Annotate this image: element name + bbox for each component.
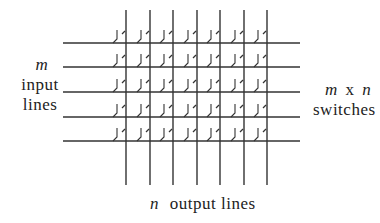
bottom-label-text: output lines — [170, 194, 256, 213]
switch-icon — [113, 104, 117, 117]
switch-contact-icon — [216, 105, 219, 108]
switch-icon — [207, 79, 211, 92]
switch-icon — [160, 54, 164, 67]
switch-icon — [160, 79, 164, 92]
switch-contact-icon — [216, 55, 219, 58]
switch-contact-icon — [122, 129, 125, 132]
switch-icon — [254, 79, 258, 92]
switch-icon — [137, 54, 141, 67]
switch-icon — [254, 54, 258, 67]
right-label-line2: switches — [313, 100, 376, 120]
right-label-var-m: m — [325, 80, 338, 99]
switch-contact-icon — [263, 55, 266, 58]
switch-icon — [231, 128, 235, 141]
switch-contact-icon — [263, 80, 266, 83]
switch-contact-icon — [169, 129, 172, 132]
switch-icon — [113, 79, 117, 92]
switch-contact-icon — [216, 31, 219, 34]
switch-contact-icon — [240, 31, 243, 34]
switch-icon — [254, 104, 258, 117]
switch-icon — [231, 30, 235, 43]
left-label-line1: input — [18, 75, 62, 95]
right-label: m x n switches — [313, 80, 376, 120]
switch-icon — [137, 104, 141, 117]
switch-icon — [113, 128, 117, 141]
switch-icon — [113, 30, 117, 43]
switch-contact-icon — [263, 105, 266, 108]
switch-contact-icon — [122, 80, 125, 83]
switch-contact-icon — [240, 105, 243, 108]
switch-contact-icon — [240, 80, 243, 83]
switch-contact-icon — [193, 105, 196, 108]
right-label-times: x — [346, 80, 355, 99]
switch-contact-icon — [263, 31, 266, 34]
bottom-label-var: n — [150, 194, 159, 213]
switch-contact-icon — [146, 31, 149, 34]
switch-contact-icon — [169, 31, 172, 34]
left-label-line2: lines — [18, 95, 62, 115]
switch-icon — [160, 128, 164, 141]
switch-icon — [207, 54, 211, 67]
switch-contact-icon — [193, 31, 196, 34]
right-label-var-n: n — [362, 80, 371, 99]
switch-icon — [184, 79, 188, 92]
switch-contact-icon — [169, 80, 172, 83]
switch-icon — [231, 104, 235, 117]
switch-icon — [184, 54, 188, 67]
switch-contact-icon — [240, 129, 243, 132]
output-lines — [126, 10, 267, 185]
switch-icon — [137, 30, 141, 43]
switch-contact-icon — [146, 55, 149, 58]
switch-icon — [231, 54, 235, 67]
switch-contact-icon — [216, 80, 219, 83]
switch-contact-icon — [193, 55, 196, 58]
switch-icon — [207, 104, 211, 117]
switch-icon — [137, 128, 141, 141]
switch-icon — [160, 30, 164, 43]
switch-contact-icon — [146, 80, 149, 83]
switch-icon — [254, 128, 258, 141]
switch-contact-icon — [216, 129, 219, 132]
switch-icon — [254, 30, 258, 43]
switch-icon — [184, 30, 188, 43]
input-lines — [63, 43, 300, 141]
left-label: m input lines — [22, 55, 62, 115]
right-label-line1: m x n — [313, 80, 376, 100]
switch-contact-icon — [122, 105, 125, 108]
switch-icon — [184, 104, 188, 117]
switch-contact-icon — [122, 55, 125, 58]
switch-contact-icon — [193, 129, 196, 132]
switch-contact-icon — [193, 80, 196, 83]
switch-icon — [160, 104, 164, 117]
switch-contact-icon — [122, 31, 125, 34]
switch-contact-icon — [240, 55, 243, 58]
switch-icon — [113, 54, 117, 67]
bottom-label: n output lines — [150, 194, 256, 214]
switch-icon — [207, 128, 211, 141]
switch-contact-icon — [146, 105, 149, 108]
switch-contact-icon — [169, 105, 172, 108]
switch-icon — [207, 30, 211, 43]
switch-icon — [231, 79, 235, 92]
switch-contact-icon — [169, 55, 172, 58]
switch-icon — [184, 128, 188, 141]
switch-contact-icon — [146, 129, 149, 132]
left-label-var: m — [22, 55, 62, 75]
switch-icon — [137, 79, 141, 92]
switch-contact-icon — [263, 129, 266, 132]
crosspoint-switches — [113, 30, 266, 141]
